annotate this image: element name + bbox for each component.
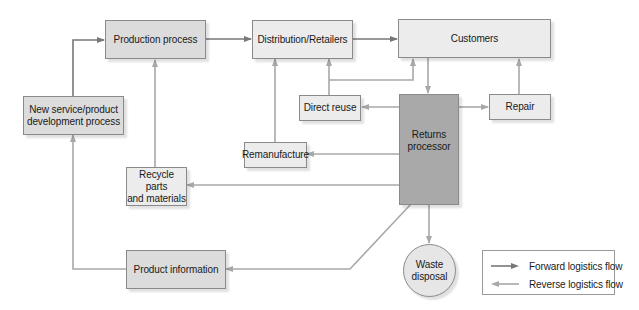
node-new-service-development: New service/product development process xyxy=(23,96,124,135)
node-direct-reuse: Direct reuse xyxy=(299,95,361,121)
forward-arrow-icon xyxy=(491,262,519,270)
node-label: Waste disposal xyxy=(412,259,448,283)
node-remanufacture: Remanufacture xyxy=(244,142,307,168)
node-label: Returns processor xyxy=(407,129,450,153)
edge-returns-to-productinfo xyxy=(226,204,411,269)
node-recycle-parts-materials: Recycle parts and materials xyxy=(126,167,187,206)
node-label: Distribution/Retailers xyxy=(257,34,347,46)
reverse-arrow-icon xyxy=(491,280,519,288)
legend: Forward logistics flow Reverse logistics… xyxy=(482,250,615,295)
node-label: Recycle parts and materials xyxy=(127,169,186,205)
reverse-logistics-diagram: New service/product development process … xyxy=(0,0,639,310)
node-returns-processor: Returns processor xyxy=(399,94,459,205)
legend-forward: Forward logistics flow xyxy=(483,259,622,273)
legend-reverse-label: Reverse logistics flow xyxy=(529,279,623,290)
node-label: Customers xyxy=(451,33,498,45)
node-repair: Repair xyxy=(489,94,551,120)
node-label: Remanufacture xyxy=(242,149,309,161)
node-customers: Customers xyxy=(398,19,551,58)
node-product-information: Product information xyxy=(126,250,226,289)
edge-productinfo-to-newservice xyxy=(73,135,126,269)
edge-newservice-to-production xyxy=(73,40,104,96)
edge-directreuse-to-customers xyxy=(329,59,413,80)
node-label: Repair xyxy=(506,101,535,113)
legend-forward-label: Forward logistics flow xyxy=(529,261,622,272)
node-production-process: Production process xyxy=(105,20,206,59)
legend-reverse: Reverse logistics flow xyxy=(483,277,623,291)
node-distribution-retailers: Distribution/Retailers xyxy=(252,20,353,59)
node-label: New service/product development process xyxy=(27,104,120,128)
node-label: Direct reuse xyxy=(304,102,357,114)
node-label: Production process xyxy=(114,34,198,46)
node-waste-disposal: Waste disposal xyxy=(403,244,456,297)
node-label: Product information xyxy=(134,264,219,276)
